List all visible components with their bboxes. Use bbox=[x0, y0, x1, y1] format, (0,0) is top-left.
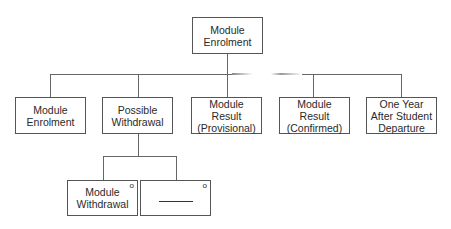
connector-root-down bbox=[227, 54, 228, 97]
node-possible-withdrawal: Possible Withdrawal bbox=[102, 97, 173, 134]
node-label: Module bbox=[33, 104, 67, 116]
node-label: Module bbox=[210, 24, 244, 36]
connector-child-2 bbox=[138, 74, 139, 97]
node-label: Module bbox=[85, 186, 119, 198]
node-label: Withdrawal bbox=[112, 116, 164, 128]
connector-sub-2 bbox=[176, 156, 177, 180]
node-label: Enrolment bbox=[27, 116, 75, 128]
connector-faded-segment bbox=[232, 73, 302, 75]
node-label: Result bbox=[300, 110, 330, 122]
circle-marker-icon: o bbox=[130, 182, 134, 190]
connector-child-5 bbox=[401, 74, 402, 97]
node-label: After Student bbox=[371, 110, 432, 122]
connector-child-1 bbox=[50, 74, 51, 97]
node-blank: o bbox=[140, 180, 211, 216]
node-label: Module bbox=[297, 98, 331, 110]
node-one-year-after-departure: One Year After Student Departure bbox=[366, 97, 437, 134]
node-label: Module bbox=[209, 98, 243, 110]
connector-child-4 bbox=[313, 74, 314, 97]
connector-sub-1 bbox=[103, 156, 104, 180]
node-module-result-provisional: Module Result (Provisional) bbox=[191, 97, 262, 134]
node-label: Result bbox=[212, 110, 242, 122]
root-node-module-enrolment: Module Enrolment bbox=[192, 17, 263, 54]
node-label: (Confirmed) bbox=[287, 122, 342, 134]
circle-marker-icon: o bbox=[203, 182, 207, 190]
node-label: Enrolment bbox=[204, 36, 252, 48]
node-module-enrolment: Module Enrolment bbox=[15, 97, 86, 134]
node-label: (Provisional) bbox=[197, 122, 255, 134]
node-module-withdrawal: o Module Withdrawal bbox=[67, 180, 138, 216]
node-label: Departure bbox=[378, 122, 425, 134]
node-label: Withdrawal bbox=[77, 198, 129, 210]
connector-withdrawal-down bbox=[138, 134, 139, 156]
node-module-result-confirmed: Module Result (Confirmed) bbox=[279, 97, 350, 134]
connector-horizontal-main bbox=[50, 74, 402, 75]
node-label: Possible bbox=[118, 104, 158, 116]
node-label: One Year bbox=[380, 98, 424, 110]
blank-line bbox=[159, 201, 193, 202]
connector-sub-horizontal bbox=[103, 156, 176, 157]
